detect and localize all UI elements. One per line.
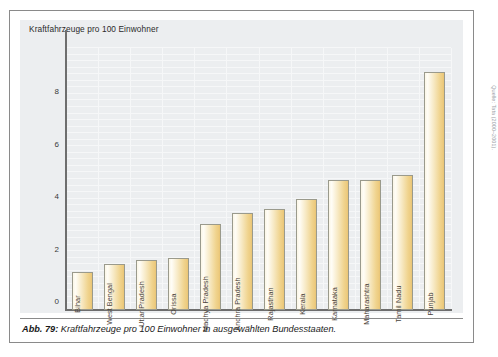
bar-category-label: Tamil Nadu — [394, 286, 403, 323]
gridline-vertical — [162, 48, 163, 310]
bar-category-label: Punjab — [426, 293, 435, 316]
bar-category-label: Kerala — [298, 293, 307, 314]
bar[interactable]: Kerala — [296, 199, 317, 310]
chart-title: Kraftfahrzeuge pro 100 Einwohner — [29, 24, 159, 34]
gridline-vertical — [323, 48, 324, 310]
source-credit: Quelle: Tata (2000–2001). — [491, 85, 497, 150]
caption-text: Kraftfahrzeuge pro 100 Einwohner in ausg… — [61, 324, 336, 334]
y-axis-line — [65, 30, 67, 310]
bar-category-label: Karnataka — [330, 287, 339, 321]
y-tick-label: 6 — [55, 139, 59, 148]
chart-panel: Kraftfahrzeuge pro 100 Einwohner 02468 B… — [20, 20, 463, 313]
caption-divider — [20, 318, 463, 319]
figure-caption: Abb. 79: Kraftfahrzeuge pro 100 Einwohne… — [22, 324, 464, 334]
bar-category-label: Uttar Pradesh — [137, 281, 146, 327]
bar-category-label: Orissa — [169, 293, 178, 314]
bar-category-label: Andhra Pradesh — [233, 277, 242, 330]
bar[interactable]: Madhya Pradesh — [200, 224, 221, 310]
y-tick-label: 8 — [55, 87, 59, 96]
bar[interactable]: Maharashtra — [360, 180, 381, 310]
gridline-vertical — [130, 48, 131, 310]
bar-category-label: Bihar — [73, 295, 82, 312]
gridline-vertical — [355, 48, 356, 310]
bar-category-label: Rajasthan — [266, 287, 275, 320]
y-tick-label: 0 — [55, 297, 59, 306]
gridline-vertical — [451, 48, 452, 310]
gridline-vertical — [291, 48, 292, 310]
gridline-vertical — [259, 48, 260, 310]
caption-number: Abb. 79: — [22, 324, 58, 334]
gridline-vertical — [98, 48, 99, 310]
bar[interactable]: Rajasthan — [264, 209, 285, 310]
bar[interactable]: Punjab — [424, 72, 445, 310]
plot-area: 02468 BiharWest BengalUttar PradeshOriss… — [66, 48, 451, 310]
gridline-vertical — [419, 48, 420, 310]
bar[interactable]: Karnataka — [328, 180, 349, 310]
bar[interactable]: Bihar — [72, 272, 93, 310]
gridline-vertical — [387, 48, 388, 310]
bar[interactable]: Andhra Pradesh — [232, 213, 253, 310]
y-tick-label: 2 — [55, 244, 59, 253]
gridline-vertical — [226, 48, 227, 310]
bar[interactable]: West Bengal — [104, 264, 125, 310]
figure-container: Kraftfahrzeuge pro 100 Einwohner 02468 B… — [9, 10, 474, 343]
bar[interactable]: Orissa — [168, 258, 189, 310]
bar[interactable]: Uttar Pradesh — [136, 260, 157, 310]
y-tick-label: 4 — [55, 192, 59, 201]
bar[interactable]: Tamil Nadu — [392, 175, 413, 310]
gridline-vertical — [194, 48, 195, 310]
